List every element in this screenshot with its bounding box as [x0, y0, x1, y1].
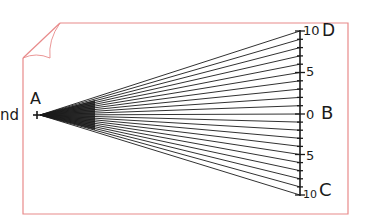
scale-label-bottom-10: 10	[303, 189, 317, 200]
scale-label-top-5: 5	[306, 65, 314, 78]
scale-label-bottom-5: 5	[306, 149, 314, 162]
point-b-label: B	[321, 104, 333, 122]
point-a-label: A	[30, 91, 41, 107]
side-label: nd	[0, 108, 19, 123]
point-d-label: D	[322, 22, 335, 39]
point-c-label: C	[319, 181, 332, 199]
ray-convergence	[40, 100, 95, 130]
point-a-marker	[33, 111, 42, 119]
diagram-canvas: nd A D B C 10 5 0 5 10	[0, 0, 377, 223]
scale-label-top-10: 10	[303, 24, 320, 37]
scale-label-0: 0	[306, 108, 314, 121]
